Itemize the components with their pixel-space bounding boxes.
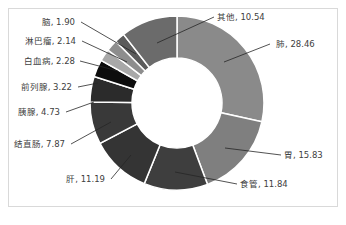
data-label: 胰腺, 4.73 xyxy=(18,107,60,117)
data-label: 结直肠, 7.87 xyxy=(14,139,65,149)
data-label: 胃, 15.83 xyxy=(284,150,323,160)
data-label: 肺, 28.46 xyxy=(276,39,315,49)
data-label: 肝, 11.19 xyxy=(66,174,105,184)
data-label: 淋巴瘤, 2.14 xyxy=(25,36,76,46)
slice-0 xyxy=(177,16,264,122)
donut-chart: 肺, 28.46胃, 15.83食管, 11.84肝, 11.19结直肠, 7.… xyxy=(0,0,346,225)
data-label: 前列腺, 3.22 xyxy=(21,82,72,92)
data-label: 脑, 1.90 xyxy=(42,17,75,27)
data-label: 其他, 10.54 xyxy=(217,12,265,22)
data-label: 白血病, 2.28 xyxy=(24,56,75,66)
data-label: 食管, 11.84 xyxy=(240,179,288,189)
